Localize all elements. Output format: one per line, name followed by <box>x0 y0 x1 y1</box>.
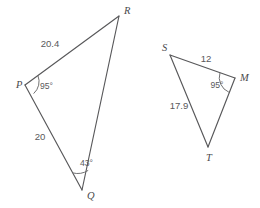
vertex-label-q: Q <box>87 190 95 201</box>
vertex-label-r: R <box>123 5 131 16</box>
triangle-pqr: P Q R 20.4 20 95° 43° <box>15 5 131 201</box>
angle-label-m: 95° <box>211 80 224 90</box>
vertex-label-p: P <box>15 79 23 90</box>
geometry-canvas: P Q R 20.4 20 95° 43° S M T 12 17.9 95° <box>0 0 260 208</box>
edge-qp <box>25 85 82 190</box>
geometry-figure: P Q R 20.4 20 95° 43° S M T 12 17.9 95° <box>0 0 260 208</box>
angle-label-q: 43° <box>80 158 93 168</box>
vertex-label-m: M <box>239 72 250 83</box>
side-label-st: 17.9 <box>170 100 189 111</box>
edge-pr <box>25 16 119 85</box>
side-label-sm: 12 <box>201 53 212 64</box>
side-label-pr: 20.4 <box>41 38 60 49</box>
vertex-label-t: T <box>206 152 213 163</box>
angle-label-p: 95° <box>40 81 53 91</box>
vertex-label-s: S <box>162 42 168 53</box>
triangle-smt: S M T 12 17.9 95° <box>162 42 250 163</box>
side-label-pq: 20 <box>35 131 46 142</box>
